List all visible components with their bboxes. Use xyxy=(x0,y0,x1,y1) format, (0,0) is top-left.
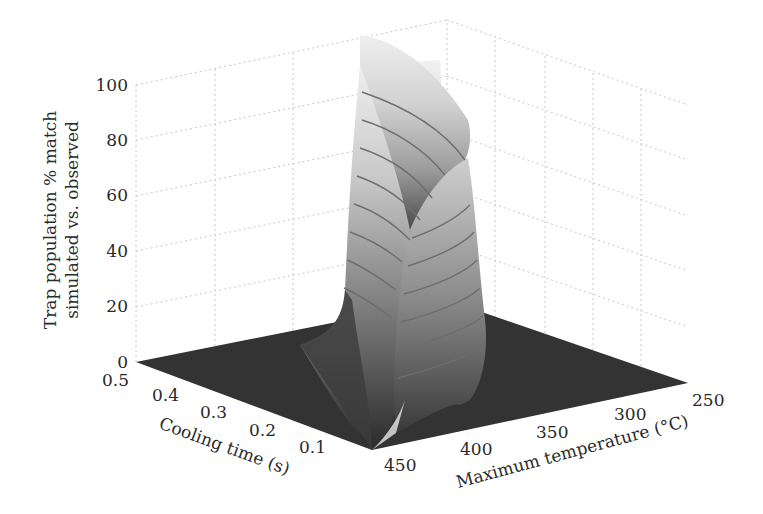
x-tick: 300 xyxy=(614,404,646,424)
y-tick: 0.5 xyxy=(102,370,129,390)
z-axis-label: Trap population % match simulated vs. ob… xyxy=(40,111,82,329)
z-tick: 20 xyxy=(106,296,128,316)
x-tick: 400 xyxy=(460,439,492,459)
z-tick: 100 xyxy=(96,75,128,95)
z-tick: 0 xyxy=(117,352,128,372)
x-tick: 450 xyxy=(384,455,416,475)
x-tick: 250 xyxy=(692,390,724,410)
x-tick: 350 xyxy=(536,422,568,442)
y-tick: 0.1 xyxy=(299,437,326,457)
y-tick: 0.3 xyxy=(200,402,227,422)
z-tick: 40 xyxy=(106,241,128,261)
svg-text:Trap population % match: Trap population % match xyxy=(40,111,60,329)
y-tick: 0.2 xyxy=(249,420,276,440)
y-tick: 0.4 xyxy=(152,385,179,405)
svg-text:simulated vs. observed: simulated vs. observed xyxy=(62,121,82,319)
surface-plot: 0 20 40 60 80 100 Trap population % matc… xyxy=(0,0,763,514)
z-axis: 0 20 40 60 80 100 xyxy=(96,75,128,372)
z-tick: 60 xyxy=(106,185,128,205)
z-tick: 80 xyxy=(106,130,128,150)
